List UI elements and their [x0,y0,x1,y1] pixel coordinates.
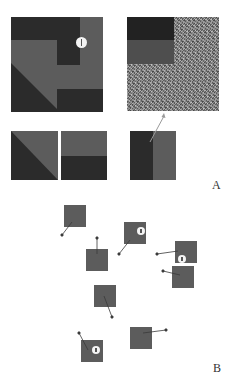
region-map-shapes [11,17,103,112]
dark-block [127,17,174,40]
info-icon [76,37,87,48]
label-b: B [213,361,221,376]
noise-texture-panel [127,17,219,111]
square-7 [130,327,152,349]
square-4 [86,249,108,271]
diagonal-split-panel [11,131,58,180]
square-3 [175,241,197,263]
square-6 [94,285,116,307]
horizontal-split-panel [61,131,107,180]
square-2 [124,222,146,244]
label-a: A [212,178,221,193]
info-icon [178,255,186,263]
vertical-split-panel [130,131,176,180]
info-icon [92,346,100,354]
region-map-panel [11,17,103,112]
square-5 [172,266,194,288]
medium-block [127,40,174,64]
square-1 [64,205,86,227]
info-icon [137,227,145,235]
square-8 [81,340,103,362]
